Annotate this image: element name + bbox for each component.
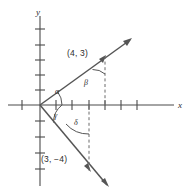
point-label-3-minus-4: (3, −4) bbox=[41, 155, 67, 164]
point-label-4-3: (4, 3) bbox=[67, 49, 88, 58]
angle-label-gamma: γ bbox=[54, 112, 57, 120]
ray-lower-right bbox=[40, 105, 107, 185]
dashed-projections-group bbox=[89, 56, 105, 172]
axes-group bbox=[8, 16, 174, 186]
angle-label-alpha: α bbox=[55, 88, 59, 96]
figure-canvas bbox=[0, 0, 188, 188]
y-axis-label: y bbox=[36, 8, 40, 17]
angle-beta-arc bbox=[93, 69, 106, 74]
angle-label-delta: δ bbox=[74, 119, 78, 127]
coordinate-plane-figure: y x (4, 3) (3, −4) α β γ δ bbox=[0, 0, 188, 188]
angle-label-beta: β bbox=[84, 79, 88, 87]
x-axis-label: x bbox=[178, 101, 182, 110]
angle-arcs-group bbox=[53, 69, 105, 134]
